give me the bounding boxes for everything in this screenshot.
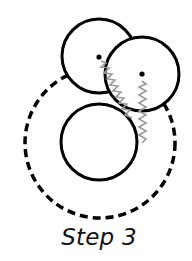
top-left-center-dot	[96, 54, 101, 59]
diagram	[0, 0, 192, 261]
step-caption: Step 3	[0, 224, 192, 250]
right-center-dot	[139, 71, 144, 76]
